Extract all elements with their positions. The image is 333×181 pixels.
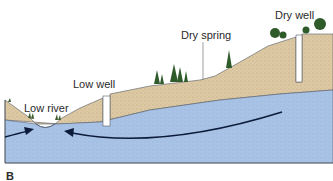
groundwater-cross-section [0,0,333,181]
low-well-label: Low well [73,79,115,90]
low-river-label: Low river [24,103,69,114]
low-well-shaft [103,96,110,126]
dry-well-label: Dry well [275,10,314,21]
dry-well-shaft [296,35,302,82]
dry-spring-label: Dry spring [181,30,231,41]
panel-label: B [6,170,14,181]
